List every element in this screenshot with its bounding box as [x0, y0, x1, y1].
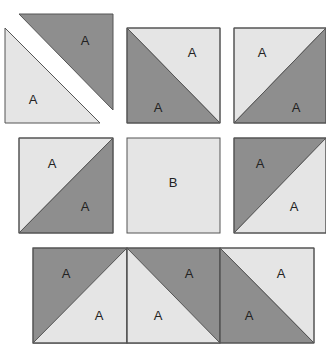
label-row1-dark: A — [81, 33, 90, 48]
label-row1-light: A — [29, 92, 38, 107]
label-r1s3-dark: A — [292, 100, 301, 115]
row1-square2 — [127, 28, 220, 123]
label-r1s3-light: A — [258, 45, 267, 60]
label-r3s1-light: A — [95, 308, 104, 323]
label-r2s1-dark: A — [81, 199, 90, 214]
label-r2s3-light: A — [290, 199, 299, 214]
row2-square3 — [234, 138, 326, 233]
label-r2s1-light: A — [48, 156, 57, 171]
row1-square3 — [234, 28, 326, 123]
row3-square1 — [33, 248, 127, 343]
row3-square2 — [127, 248, 220, 343]
label-r3s2-light: A — [154, 308, 163, 323]
label-r3s3-light: A — [277, 266, 286, 281]
label-r1s2-light: A — [188, 45, 197, 60]
label-r3s2-dark: A — [185, 266, 194, 281]
label-r3s1-dark: A — [62, 266, 71, 281]
label-r2s3-dark: A — [256, 156, 265, 171]
label-r3s3-dark: A — [245, 308, 254, 323]
row1-split-triangles — [5, 14, 113, 123]
quilt-block-diagram: A A A A A A A A B A A A A A A A A — [0, 0, 326, 352]
label-r1s2-dark: A — [154, 100, 163, 115]
row2-square1 — [19, 138, 113, 233]
row3-square3 — [220, 248, 314, 343]
label-r2s2-b: B — [169, 175, 178, 190]
